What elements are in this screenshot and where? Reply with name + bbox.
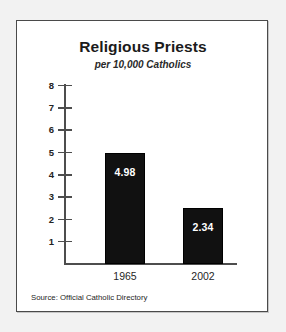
y-axis-tick [58,152,72,154]
y-axis-tick-label: 4 [30,170,54,180]
x-axis-tick-label: 1965 [90,270,160,282]
y-axis-tick [58,107,72,109]
y-axis-tick [58,196,72,198]
y-axis-tick-label: 2 [30,215,54,225]
plot-area: 87654321 4.982.34 19652002 [17,21,269,313]
y-axis-tick [58,85,72,87]
y-axis-tick [58,241,72,243]
y-axis-tick-label: 3 [30,192,54,202]
y-axis-tick-label: 1 [30,237,54,247]
y-axis-tick-label: 6 [30,125,54,135]
y-axis-tick-label: 7 [30,103,54,113]
bar: 2.34 [183,208,223,264]
x-axis-tick-label: 2002 [168,270,238,282]
y-axis-tick [58,129,72,131]
bar: 4.98 [105,153,145,264]
bar-value-label: 2.34 [184,221,222,233]
y-axis-tick-label: 8 [30,81,54,91]
bar-value-label: 4.98 [106,166,144,178]
chart-figure-frame: Religious Priests per 10,000 Catholics 8… [16,20,268,312]
y-axis-tick [58,219,72,221]
source-note: Source: Official Catholic Directory [31,293,147,302]
y-axis-tick-label: 5 [30,148,54,158]
y-axis-tick [58,174,72,176]
